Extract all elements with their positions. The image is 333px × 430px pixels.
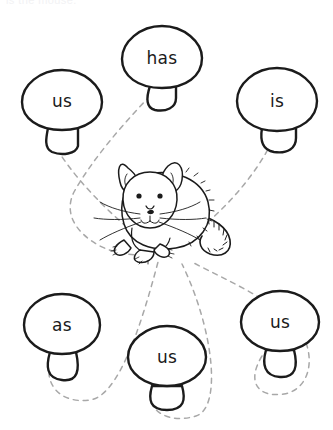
- mushroom-label-us-bottom-center: us: [157, 347, 177, 367]
- mouse-eye-left: [136, 193, 141, 198]
- mouse-foot-hind: [134, 250, 154, 262]
- worksheet-canvas: is the mouse.: [0, 0, 333, 430]
- mushroom-label-us-bottom-right: us: [270, 312, 290, 332]
- mushroom-label-us-top-left: us: [52, 91, 72, 111]
- mouse-illustration: [94, 163, 230, 264]
- mushroom-as-bottom-left[interactable]: [24, 294, 100, 380]
- mushroom-label-is-top-right: is: [270, 91, 284, 111]
- mushroom-label-as-bottom-left: as: [52, 315, 72, 335]
- mushroom-us-bottom-right[interactable]: [241, 291, 319, 377]
- mouse-eye-right: [157, 193, 162, 198]
- mushroom-us-top-left[interactable]: [22, 70, 102, 154]
- mushroom-stem: [147, 86, 176, 111]
- mushroom-stem: [150, 386, 184, 410]
- mushroom-has-top-center[interactable]: [122, 26, 202, 111]
- mushroom-us-bottom-center[interactable]: [128, 326, 206, 410]
- mushroom-stem: [48, 352, 78, 380]
- mushroom-label-has-top-center: has: [147, 48, 178, 68]
- mushroom-stem: [264, 350, 296, 377]
- mushroom-stem: [46, 128, 78, 154]
